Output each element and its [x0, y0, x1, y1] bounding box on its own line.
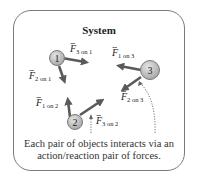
label-f-3-on-2: F3 on 2	[95, 115, 118, 127]
svg-text:F3 on 2: F3 on 2	[95, 115, 118, 127]
svg-text:F1 on 3: F1 on 3	[111, 47, 134, 59]
svg-text:F3 on 1: F3 on 1	[69, 43, 92, 55]
arrow-f-1-on-2	[68, 101, 70, 117]
caption: Each pair of objects interacts via an ac…	[18, 138, 180, 162]
arrow-f-2-on-3	[124, 77, 141, 89]
svg-text:F2 on 1: F2 on 1	[28, 70, 51, 82]
label-f-3-on-1: F3 on 1	[69, 43, 92, 55]
object-1-label: 1	[55, 53, 60, 64]
object-2-label: 2	[73, 117, 78, 128]
arrow-f-3-on-2	[80, 101, 101, 115]
label-f-2-on-3: F2 on 3	[120, 91, 143, 103]
arrow-f-2-on-1	[59, 66, 64, 80]
arrow-f-1-on-3	[120, 66, 141, 70]
svg-text:F1 on 2: F1 on 2	[35, 97, 58, 109]
object-3-label: 3	[148, 65, 153, 76]
label-f-1-on-3: F1 on 3	[111, 47, 134, 59]
label-f-1-on-2: F1 on 2	[35, 97, 58, 109]
pointer-2-on-3	[140, 83, 155, 133]
arrow-f-3-on-1	[62, 58, 85, 62]
svg-text:F2 on 3: F2 on 3	[120, 91, 143, 103]
label-f-2-on-1: F2 on 1	[28, 70, 51, 82]
